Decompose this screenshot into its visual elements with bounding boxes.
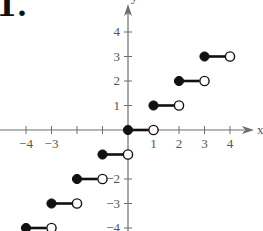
step-segment — [123, 125, 158, 134]
closed-dot-icon — [200, 52, 209, 61]
open-dot-icon — [149, 125, 158, 134]
step-segment — [72, 174, 107, 183]
y-tick-label: −2 — [106, 171, 120, 186]
open-dot-icon — [47, 223, 56, 231]
step-function-graph: xy −4−31234−4−3−21234 — [0, 0, 263, 231]
open-dot-icon — [98, 174, 107, 183]
y-tick-label: −4 — [106, 220, 120, 231]
x-tick-label: 2 — [176, 136, 183, 151]
step-segment — [98, 150, 133, 159]
x-tick-label: −3 — [45, 136, 59, 151]
step-segment — [149, 101, 184, 110]
closed-dot-icon — [72, 174, 81, 183]
y-tick-label: 2 — [114, 73, 121, 88]
x-tick-label: −4 — [19, 136, 33, 151]
x-axis-label: x — [257, 122, 263, 137]
closed-dot-icon — [47, 199, 56, 208]
open-dot-icon — [225, 52, 234, 61]
closed-dot-icon — [149, 101, 158, 110]
x-tick-label: 4 — [227, 136, 234, 151]
step-segment — [174, 76, 209, 85]
x-tick-label: 1 — [150, 136, 157, 151]
y-axis-label: y — [131, 0, 138, 4]
closed-dot-icon — [174, 76, 183, 85]
y-tick-label: −3 — [106, 196, 120, 211]
closed-dot-icon — [123, 125, 132, 134]
open-dot-icon — [123, 150, 132, 159]
y-tick-label: 1 — [114, 98, 121, 113]
step-segment — [21, 223, 56, 231]
y-tick-label: 3 — [114, 49, 121, 64]
closed-dot-icon — [98, 150, 107, 159]
open-dot-icon — [174, 101, 183, 110]
step-segment — [47, 199, 82, 208]
axes: xy — [0, 0, 263, 231]
step-segment — [200, 52, 235, 61]
open-dot-icon — [72, 199, 81, 208]
closed-dot-icon — [21, 223, 30, 231]
open-dot-icon — [200, 76, 209, 85]
x-tick-label: 3 — [201, 136, 208, 151]
y-tick-label: 4 — [114, 24, 121, 39]
